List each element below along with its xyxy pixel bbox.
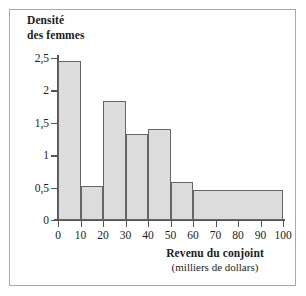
x-axis-title-units: (milliers de dollars)	[135, 260, 295, 274]
y-tick-mark	[51, 220, 57, 221]
histogram-bar	[81, 186, 104, 220]
histogram-bar	[148, 129, 171, 220]
y-axis-title-line-1: Densité	[27, 13, 85, 28]
histogram-bar	[103, 101, 126, 220]
histogram-bar	[58, 61, 81, 220]
x-tick-label: 100	[274, 229, 291, 241]
histogram-bar	[171, 182, 194, 220]
x-tick-label: 80	[232, 229, 244, 241]
y-axis-title: Densité des femmes	[27, 13, 85, 42]
x-axis-title: Revenu du conjoint (milliers de dollars)	[135, 246, 295, 274]
histogram-bar	[126, 134, 149, 220]
x-tick-label: 10	[75, 229, 87, 241]
y-tick-mark	[51, 188, 57, 189]
x-axis-title-main: Revenu du conjoint	[135, 246, 295, 260]
histogram-bar	[193, 190, 283, 220]
x-tick-mark	[283, 221, 284, 227]
x-tick-mark	[58, 221, 59, 227]
x-tick-label: 20	[97, 229, 109, 241]
y-tick-mark	[51, 90, 57, 91]
x-tick-label: 70	[210, 229, 222, 241]
x-tick-label: 50	[165, 229, 177, 241]
x-tick-mark	[261, 221, 262, 227]
x-tick-mark	[126, 221, 127, 227]
x-tick-mark	[103, 221, 104, 227]
y-tick-label: 2	[43, 84, 49, 96]
y-tick-label: 0	[43, 214, 49, 226]
y-tick-label: 0,5	[35, 182, 49, 194]
y-tick-mark	[51, 155, 57, 156]
x-tick-label: 40	[142, 229, 154, 241]
y-tick-label: 1,5	[35, 117, 49, 129]
y-axis-title-line-2: des femmes	[27, 28, 85, 43]
histogram-figure: Densité des femmes 00,511,522,5 01020304…	[0, 0, 306, 296]
x-tick-label: 0	[55, 229, 61, 241]
x-tick-mark	[193, 221, 194, 227]
x-tick-label: 60	[187, 229, 199, 241]
x-tick-mark	[148, 221, 149, 227]
x-tick-mark	[216, 221, 217, 227]
plot-area: 00,511,522,5 0102030405060708090100	[58, 58, 283, 220]
y-tick-mark	[51, 58, 57, 59]
x-tick-label: 90	[255, 229, 267, 241]
y-tick-mark	[51, 123, 57, 124]
x-tick-label: 30	[120, 229, 132, 241]
y-tick-label: 2,5	[35, 52, 49, 64]
x-tick-mark	[171, 221, 172, 227]
y-tick-label: 1	[43, 149, 49, 161]
x-tick-mark	[238, 221, 239, 227]
x-tick-mark	[81, 221, 82, 227]
